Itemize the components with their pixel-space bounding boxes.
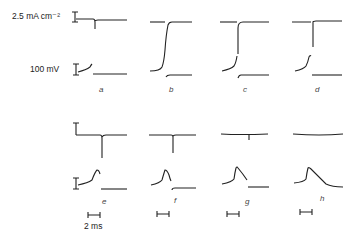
svg-text:d: d — [315, 85, 320, 94]
svg-text:b: b — [169, 85, 174, 94]
current-scale-label: 2.5 mA cm⁻² — [12, 11, 60, 21]
svg-text:h: h — [320, 194, 325, 203]
svg-text:c: c — [243, 85, 247, 94]
panel-f-traces: f — [149, 135, 196, 205]
panel-a-traces: a — [76, 19, 127, 94]
figure-traces: 2.5 mA cm⁻² 100 mV 2 ms a b c d — [0, 0, 362, 241]
panel-d-traces: d — [292, 21, 342, 94]
panel-g-traces: g — [221, 134, 269, 206]
panel-h-traces: h — [293, 134, 343, 203]
svg-text:e: e — [102, 197, 107, 206]
voltage-scale-bar-bottom — [73, 178, 79, 189]
voltage-scale-bar — [73, 64, 79, 75]
current-scale-bar-bottom — [73, 123, 79, 135]
voltage-scale-label: 100 mV — [30, 64, 60, 74]
panel-c-traces: c — [220, 22, 269, 94]
svg-text:a: a — [99, 85, 104, 94]
current-scale-bar — [72, 12, 78, 22]
panel-b-traces: b — [150, 22, 192, 94]
svg-text:g: g — [245, 197, 250, 206]
panel-e-traces: e — [76, 135, 127, 206]
time-scale-label: 2 ms — [84, 221, 102, 231]
time-scale-bars — [88, 209, 312, 218]
svg-text:f: f — [174, 196, 177, 205]
